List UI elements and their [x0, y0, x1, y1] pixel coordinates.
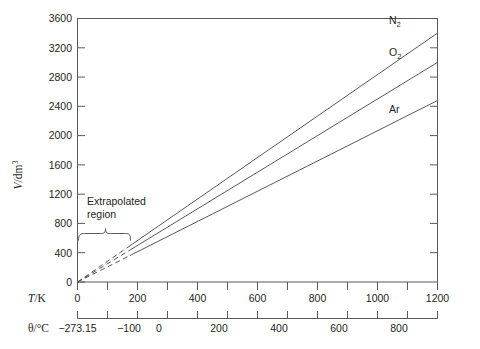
y-tick-label: 2000: [49, 129, 73, 141]
x-tick-label: 0: [75, 292, 81, 304]
y-tick-label: 1600: [49, 159, 73, 171]
y-tick-label: 2400: [49, 100, 73, 112]
celsius-tick-label: −273.15: [58, 322, 96, 334]
x-axis-kelvin-title: T/K: [28, 292, 47, 304]
celsius-tick-label: 800: [390, 322, 408, 334]
series-line-o2: [78, 62, 438, 282]
series-label-n2: N2: [389, 14, 401, 29]
y-axis-title-unit: /dm: [12, 164, 24, 182]
x-tick-label: 600: [249, 292, 267, 304]
celsius-tick-label: 400: [270, 322, 288, 334]
x-tick-label: 400: [189, 292, 207, 304]
extrapolated-region-label-line1: Extrapolated: [87, 195, 146, 207]
x-axis-kelvin-unit: /K: [34, 292, 46, 304]
x-axis-celsius-unit: /°C: [34, 322, 50, 334]
series-label-ar: Ar: [389, 103, 400, 115]
y-axis-title-exponent: 3: [11, 161, 20, 165]
gas-volume-temperature-chart: 0 400 800 1200 1600 2000 2400 2800 3200 …: [0, 0, 480, 349]
x-axis-kelvin-labels: 0 200 400 600 800 1000 1200: [75, 292, 450, 304]
y-tick-label: 800: [54, 217, 72, 229]
y-tick-label: 400: [54, 247, 72, 259]
series-line-ar: [78, 101, 438, 283]
right-axis-ticks: [430, 48, 438, 253]
y-tick-label: 0: [66, 276, 72, 288]
y-axis-ticks: [78, 48, 86, 282]
x-axis-kelvin-ticks: [78, 282, 438, 290]
y-tick-label: 2800: [49, 71, 73, 83]
celsius-tick-label: 600: [330, 322, 348, 334]
extrapolated-region-label-line2: region: [87, 208, 116, 220]
svg-text:V/dm3: V/dm3: [11, 161, 24, 190]
x-axis-celsius-labels: −273.15 −100 0 200 400 600 800: [58, 322, 408, 334]
series-line-n2: [78, 33, 438, 282]
chart-svg: 0 400 800 1200 1600 2000 2400 2800 3200 …: [0, 0, 480, 349]
celsius-tick-label: 0: [156, 322, 162, 334]
x-tick-label: 1200: [426, 292, 450, 304]
x-axis-celsius-ticks: [78, 311, 438, 319]
plot-frame: [78, 19, 438, 283]
y-tick-label: 3600: [49, 12, 73, 24]
celsius-tick-label: 200: [210, 322, 228, 334]
series-label-o2: O2: [389, 46, 401, 61]
extrapolated-region-brace: [79, 229, 131, 241]
y-tick-label: 3200: [49, 42, 73, 54]
x-tick-label: 1000: [366, 292, 390, 304]
x-tick-label: 200: [129, 292, 147, 304]
y-axis-tick-labels: 0 400 800 1200 1600 2000 2400 2800 3200 …: [49, 12, 73, 288]
celsius-tick-label: −100: [117, 322, 141, 334]
y-axis-title: V/dm3: [11, 161, 24, 190]
x-tick-label: 800: [309, 292, 327, 304]
y-tick-label: 1200: [49, 188, 73, 200]
x-axis-celsius-title: θ/°C: [28, 322, 49, 334]
